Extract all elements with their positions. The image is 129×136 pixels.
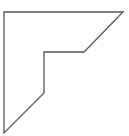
diagram-canvas: [0, 0, 129, 136]
l-shaped-polygon: [4, 12, 123, 133]
